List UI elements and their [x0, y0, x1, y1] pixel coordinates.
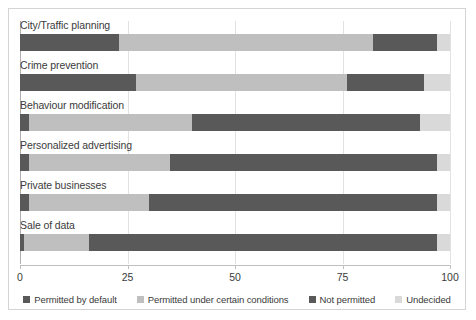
bar-group: Crime prevention: [9, 59, 465, 99]
legend-swatch-icon: [309, 296, 316, 303]
stacked-bar[interactable]: [20, 154, 450, 171]
bar-segment[interactable]: [437, 34, 450, 51]
legend-swatch-icon: [395, 296, 402, 303]
bar-category-label: Sale of data: [20, 219, 75, 231]
x-tick-mark: [450, 265, 451, 269]
x-tick-label: 50: [229, 271, 241, 283]
stacked-bar[interactable]: [20, 74, 450, 91]
x-tick-mark: [235, 265, 236, 269]
bar-segment[interactable]: [437, 234, 450, 251]
bar-segment[interactable]: [420, 114, 450, 131]
bar-group: Personalized advertising: [9, 139, 465, 179]
bar-segment[interactable]: [119, 34, 373, 51]
x-axis: 0255075100: [9, 265, 465, 287]
legend-label: Undecided: [406, 294, 451, 305]
bar-segment[interactable]: [20, 34, 119, 51]
bar-segment[interactable]: [29, 114, 192, 131]
bar-segment[interactable]: [89, 234, 437, 251]
legend-swatch-icon: [137, 296, 144, 303]
bar-group: City/Traffic planning: [9, 19, 465, 59]
legend-label: Not permitted: [320, 294, 376, 305]
legend-label: Permitted under certain conditions: [148, 294, 289, 305]
x-tick-mark: [343, 265, 344, 269]
legend-label: Permitted by default: [34, 294, 117, 305]
plot-area: City/Traffic planningCrime preventionBeh…: [9, 13, 465, 265]
x-tick-label: 75: [337, 271, 349, 283]
x-tick-label: 100: [441, 271, 459, 283]
bar-segment[interactable]: [20, 114, 29, 131]
chart-frame: City/Traffic planningCrime preventionBeh…: [8, 8, 466, 310]
bar-category-label: Private businesses: [20, 179, 106, 191]
legend-item[interactable]: Not permitted: [309, 294, 376, 305]
bar-segment[interactable]: [424, 74, 450, 91]
bar-category-label: City/Traffic planning: [20, 19, 110, 31]
bar-category-label: Personalized advertising: [20, 139, 132, 151]
bar-segment[interactable]: [437, 154, 450, 171]
x-tick-mark: [128, 265, 129, 269]
bar-group: Behaviour modification: [9, 99, 465, 139]
x-tick-label: 25: [122, 271, 134, 283]
bar-group: Private businesses: [9, 179, 465, 219]
legend-item[interactable]: Undecided: [395, 294, 451, 305]
stacked-bar[interactable]: [20, 34, 450, 51]
bar-segment[interactable]: [149, 194, 437, 211]
bar-segment[interactable]: [29, 154, 171, 171]
chart-legend: Permitted by defaultPermitted under cert…: [9, 291, 465, 307]
bar-segment[interactable]: [347, 74, 424, 91]
bar-segment[interactable]: [192, 114, 420, 131]
bar-segment[interactable]: [20, 154, 29, 171]
stacked-bar[interactable]: [20, 234, 450, 251]
bar-segment[interactable]: [20, 194, 29, 211]
bar-segment[interactable]: [437, 194, 450, 211]
bar-segment[interactable]: [20, 74, 136, 91]
x-tick-mark: [20, 265, 21, 269]
legend-item[interactable]: Permitted under certain conditions: [137, 294, 289, 305]
bar-category-label: Behaviour modification: [20, 99, 124, 111]
stacked-bar[interactable]: [20, 114, 450, 131]
bar-segment[interactable]: [170, 154, 437, 171]
bar-segment[interactable]: [29, 194, 149, 211]
stacked-bar[interactable]: [20, 194, 450, 211]
x-tick-label: 0: [17, 271, 23, 283]
legend-swatch-icon: [23, 296, 30, 303]
bar-category-label: Crime prevention: [20, 59, 98, 71]
legend-item[interactable]: Permitted by default: [23, 294, 117, 305]
bar-group: Sale of data: [9, 219, 465, 259]
bar-segment[interactable]: [136, 74, 347, 91]
bar-segment[interactable]: [24, 234, 89, 251]
bar-segment[interactable]: [373, 34, 438, 51]
